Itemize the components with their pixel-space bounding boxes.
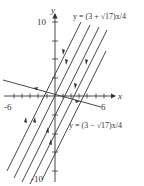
trajectory-lines	[7, 22, 107, 184]
x-tick-label-neg6: -6	[4, 102, 12, 112]
y-tick-label-10: 10	[37, 17, 47, 27]
eigenline-shallow-label: y = (3 − √17)x/4	[69, 121, 122, 130]
y-axis-label: y	[50, 5, 55, 15]
y-axis	[52, 14, 58, 182]
trajectory-arrows	[24, 49, 88, 145]
x-tick-label-6: 6	[101, 102, 106, 112]
phase-portrait-diagram: y x 10 -10 -6 6 y = (3 + √17)x/4 y = (3 …	[0, 0, 144, 186]
y-tick-label-neg10: -10	[31, 174, 43, 184]
x-axis-label: x	[117, 91, 122, 101]
eigenline-steep-label: y = (3 + √17)x/4	[73, 12, 126, 21]
eigenline-shallow	[3, 80, 101, 107]
